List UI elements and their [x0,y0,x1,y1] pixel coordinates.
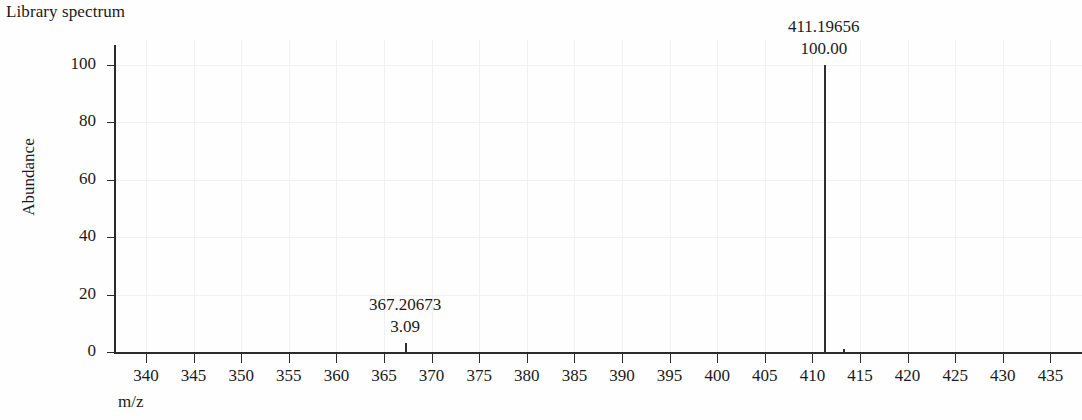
x-axis-tick-mark [955,354,956,363]
figure-title: Library spectrum [6,2,125,22]
x-axis-tick-mark [670,354,671,363]
x-axis-tick-mark [622,354,623,363]
x-axis-tick-mark [336,354,337,363]
gridline-horizontal [114,237,1082,238]
x-axis-tick-mark [432,354,433,363]
x-axis-tick-mark [1003,354,1004,363]
x-axis-tick-label: 435 [1020,366,1080,386]
gridline-vertical [1050,40,1051,352]
x-axis-tick-mark [765,354,766,363]
gridline-vertical [955,40,956,352]
gridline-horizontal [114,180,1082,181]
x-axis-line [114,352,1082,354]
chart-gridlines [114,40,1082,352]
x-axis-tick-mark [194,354,195,363]
gridline-vertical [1003,40,1004,352]
spectrum-peak [824,65,826,352]
gridline-vertical [812,40,813,352]
y-axis-tick-label: 20 [36,284,96,304]
x-axis-tick-mark [860,354,861,363]
gridline-horizontal [114,295,1082,296]
x-axis-tick-mark [908,354,909,363]
y-axis-tick-label: 80 [36,111,96,131]
x-axis-tick-mark [1050,354,1051,363]
peak-abundance-label: 3.09 [305,317,505,337]
x-axis-tick-mark [574,354,575,363]
y-axis-line [114,45,116,353]
peak-mz-label: 367.20673 [305,295,505,315]
gridline-vertical [241,40,242,352]
x-axis-tick-mark [289,354,290,363]
peak-abundance-label: 100.00 [724,39,924,59]
y-axis-tick-mark [107,295,116,296]
gridline-horizontal [114,122,1082,123]
y-axis-tick-label: 100 [36,54,96,74]
gridline-vertical [908,40,909,352]
x-axis-tick-mark [384,354,385,363]
y-axis-tick-label: 40 [36,226,96,246]
peak-mz-label: 411.19656 [724,17,924,37]
mass-spectrum-figure: Library spectrum Abundance 020406080100 … [0,0,1082,420]
gridline-vertical [622,40,623,352]
y-axis-tick-mark [107,237,116,238]
gridline-vertical [717,40,718,352]
y-axis-tick-mark [107,180,116,181]
y-axis-tick-mark [107,65,116,66]
x-axis-tick-mark [146,354,147,363]
gridline-vertical [574,40,575,352]
gridline-vertical [289,40,290,352]
x-axis-label: m/z [118,392,144,412]
y-axis-tick-mark [107,122,116,123]
gridline-vertical [765,40,766,352]
y-axis-tick-label: 0 [36,341,96,361]
x-axis-tick-mark [717,354,718,363]
gridline-vertical [527,40,528,352]
y-axis-tick-label: 60 [36,169,96,189]
gridline-vertical [670,40,671,352]
spectrum-peak [843,349,845,352]
gridline-vertical [194,40,195,352]
gridline-vertical [146,40,147,352]
gridline-horizontal [114,65,1082,66]
gridline-vertical [860,40,861,352]
spectrum-peak [405,343,407,352]
x-axis-tick-mark [479,354,480,363]
x-axis-tick-mark [527,354,528,363]
x-axis-tick-mark [241,354,242,363]
x-axis-tick-mark [812,354,813,363]
